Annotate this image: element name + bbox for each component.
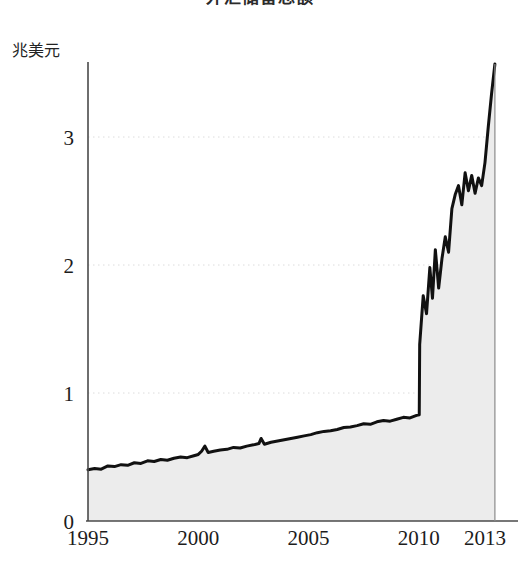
y-tick-label: 2 xyxy=(64,254,75,278)
chart-container: 外汇储备总额 兆美元 0123 19952000200520102013 xyxy=(0,0,520,573)
plot-area: 0123 19952000200520102013 xyxy=(0,0,520,573)
x-tick-label: 2010 xyxy=(398,526,440,550)
x-tick-label: 2013 xyxy=(464,526,506,550)
x-tick-label: 1995 xyxy=(67,526,109,550)
y-tick-labels: 0123 xyxy=(64,126,75,534)
x-tick-labels: 19952000200520102013 xyxy=(67,526,506,550)
x-tick-label: 2000 xyxy=(177,526,219,550)
y-tick-label: 1 xyxy=(64,382,75,406)
y-tick-label: 3 xyxy=(64,126,75,150)
x-tick-label: 2005 xyxy=(288,526,330,550)
